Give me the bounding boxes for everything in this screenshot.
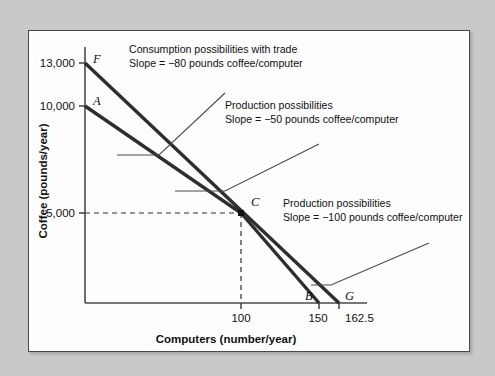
x-tick-label-100: 100 — [231, 312, 250, 324]
data-point-marker-c — [238, 210, 244, 216]
annotation-production-50-line1: Production possibilities — [225, 99, 333, 111]
chart-svg: 13,000 10,000 5,000 100 150 162.5 F A C — [29, 31, 471, 353]
annotation-leader-line-production-100 — [311, 243, 429, 285]
y-tick-label-13000: 13,000 — [40, 57, 75, 69]
data-point-label-c: C — [251, 195, 260, 209]
x-tick-label-162-5: 162.5 — [345, 312, 374, 324]
annotation-production-100-line1: Production possibilities — [283, 197, 391, 209]
annotation-consumption-line2: Slope = −80 pounds coffee/computer — [129, 57, 303, 69]
figure-frame: 13,000 10,000 5,000 100 150 162.5 F A C — [28, 30, 470, 352]
annotation-consumption-line1: Consumption possibilities with trade — [129, 43, 298, 55]
chart-plot-area: 13,000 10,000 5,000 100 150 162.5 F A C — [29, 31, 471, 353]
x-tick-label-150: 150 — [308, 312, 327, 324]
x-axis-title: Computers (number/year) — [156, 333, 297, 345]
y-axis-title: Coffee (pounds/year) — [37, 123, 49, 238]
data-point-label-b: B — [305, 289, 313, 303]
y-tick-label-5000: 5,000 — [46, 207, 75, 219]
annotation-production-100-line2: Slope = −100 pounds coffee/computer — [283, 211, 463, 223]
data-point-label-f: F — [92, 52, 101, 66]
annotation-production-50-line2: Slope = −50 pounds coffee/computer — [225, 113, 399, 125]
data-point-label-g: G — [345, 289, 354, 303]
y-tick-label-10000: 10,000 — [40, 100, 75, 112]
data-point-label-a: A — [92, 94, 101, 108]
